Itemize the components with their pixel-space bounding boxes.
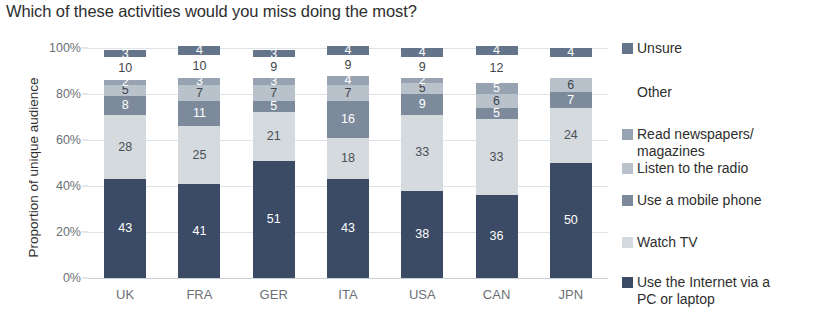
bar-segment[interactable]: 11 [178,101,220,126]
bar-segment[interactable]: 5 [401,83,443,95]
bar-segment-value: 7 [270,87,277,100]
bar-segment-value: 7 [567,94,574,107]
bar-segment[interactable]: 5 [476,83,518,95]
bar-segment[interactable]: 9 [253,57,295,78]
gridline [88,278,608,279]
bar-segment-value: 41 [192,225,206,238]
bar-segment[interactable]: 8 [104,96,146,114]
bar-segment[interactable]: 3 [253,78,295,85]
bar-segment[interactable]: 7 [178,85,220,101]
bar-segment-value: 33 [415,146,429,159]
bar-segment[interactable]: 4 [476,46,518,55]
bar-segment[interactable]: 2 [401,78,443,83]
bar-segment-value: 50 [564,214,578,227]
bar-segment[interactable]: 9 [401,57,443,78]
y-axis-tick-mark [82,48,88,49]
bar-segment[interactable]: 33 [476,119,518,195]
bar-segment[interactable]: 7 [253,85,295,101]
bar-segment[interactable]: 9 [401,94,443,115]
bar-can[interactable]: 3633565124CAN [476,46,518,278]
bar-segment[interactable]: 3 [178,78,220,85]
bar-segment-value: 7 [345,87,352,100]
bar-segment[interactable]: 43 [327,179,369,278]
bar-segment[interactable]: 9 [327,55,369,76]
bar-segment[interactable]: 6 [476,94,518,108]
bar-segment-value: 6 [493,95,500,108]
legend-swatch-icon [622,87,633,98]
bar-segment[interactable]: 28 [104,115,146,179]
legend-swatch-icon [622,43,633,54]
bar-segment[interactable]: 7 [550,92,592,108]
bar-segment-value: 4 [345,44,352,57]
legend-item[interactable]: Unsure [622,40,682,57]
legend-item[interactable]: Watch TV [622,234,698,251]
legend-item[interactable]: Listen to the radio [622,160,748,177]
bar-fra[interactable]: 41251173104FRA [178,46,220,278]
bar-segment[interactable]: 5 [476,108,518,120]
bar-segment[interactable]: 5 [104,85,146,97]
legend-item[interactable]: Use a mobile phone [622,192,762,209]
bar-segment-value: 12 [490,62,504,75]
legend-swatch-icon [622,195,633,206]
bar-segment-value: 33 [490,151,504,164]
bar-ita[interactable]: 4318167494ITA [327,46,369,278]
bar-segment[interactable]: 4 [327,46,369,55]
bar-segment[interactable]: 25 [178,126,220,184]
bar-usa[interactable]: 383395294USA [401,48,443,278]
bar-segment[interactable]: 38 [401,191,443,278]
legend-label: Other [637,84,672,101]
bar-segment[interactable]: 18 [327,138,369,179]
legend-item[interactable]: Read newspapers/magazines [622,126,754,159]
bar-segment[interactable]: 10 [104,57,146,80]
bar-segment-value: 28 [118,141,132,154]
bar-segment[interactable]: 10 [178,55,220,78]
legend-label: Read newspapers/magazines [637,126,754,159]
bar-segment[interactable]: 21 [253,112,295,160]
bar-segment-value: 38 [415,228,429,241]
bar-segment[interactable]: 3 [253,50,295,57]
bar-segment[interactable]: 24 [550,108,592,163]
bar-segment-value: 10 [192,60,206,73]
x-axis-category-label: CAN [476,287,518,302]
bar-segment-value: 36 [490,230,504,243]
bar-segment[interactable]: 50 [550,163,592,278]
bar-jpn[interactable]: 5024764JPN [550,48,592,278]
bar-segment[interactable]: 4 [327,76,369,85]
bar-segment[interactable]: 7 [327,85,369,101]
legend-item[interactable]: Use the Internet via aPC or laptop [622,274,770,307]
bar-segment[interactable] [550,57,592,78]
plot-area: 0%20%40%60%80%100% 4328852103UK412511731… [88,48,608,278]
bar-segment[interactable]: 43 [104,179,146,278]
x-axis-category-label: UK [104,287,146,302]
legend-label: Use the Internet via aPC or laptop [637,274,770,307]
bar-segment[interactable]: 16 [327,101,369,138]
bar-segment-value: 16 [341,113,355,126]
bar-segment-value: 4 [345,74,352,87]
bar-ger[interactable]: 512157393GER [253,50,295,278]
bar-segment[interactable]: 33 [401,115,443,191]
x-axis-category-label: ITA [327,287,369,302]
bar-segment-value: 4 [196,44,203,57]
bar-segment[interactable]: 51 [253,161,295,278]
y-axis-tick-mark [82,278,88,279]
bar-segment[interactable]: 36 [476,195,518,278]
y-axis-tick-label: 20% [56,225,81,239]
bar-segment[interactable]: 12 [476,55,518,83]
y-axis-tick-mark [82,186,88,187]
bar-uk[interactable]: 4328852103UK [104,50,146,278]
bar-segment[interactable]: 2 [104,80,146,85]
bar-segment-value: 43 [341,222,355,235]
bar-segment[interactable]: 3 [104,50,146,57]
bar-segment[interactable]: 6 [550,78,592,92]
bar-segment[interactable]: 5 [253,101,295,113]
bar-segment-value: 9 [419,61,426,74]
bar-segment[interactable]: 41 [178,184,220,278]
chart-figure: Which of these activities would you miss… [0,0,818,311]
bar-segment[interactable]: 4 [401,48,443,57]
bar-segment-value: 11 [193,107,206,120]
bar-segment[interactable]: 4 [178,46,220,55]
legend-item[interactable]: Other [622,84,672,101]
bar-segment[interactable]: 4 [550,48,592,57]
bar-segment-value: 7 [196,87,203,100]
bar-segment-value: 5 [419,82,426,95]
